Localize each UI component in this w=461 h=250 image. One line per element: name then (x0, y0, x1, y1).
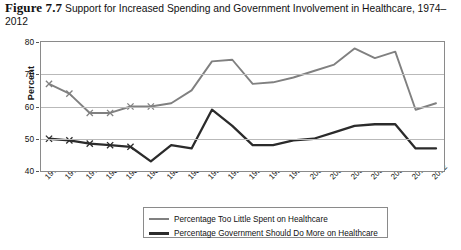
legend-box: Percentage Too Little Spent on Healthcar… (143, 207, 388, 238)
y-tick-mark (36, 139, 39, 140)
series-line (49, 110, 436, 162)
legend-swatch (149, 218, 169, 220)
figure-root: Figure 7.7 Support for Increased Spendin… (0, 0, 461, 250)
y-tick-label: 60 (14, 102, 34, 112)
legend-label: Percentage Government Should Do More on … (174, 229, 378, 238)
y-tick-mark (36, 74, 39, 75)
y-tick-mark (36, 171, 39, 172)
y-tick-label: 50 (14, 134, 34, 144)
gridline (41, 107, 444, 108)
legend-item: Percentage Too Little Spent on Healthcar… (149, 213, 328, 225)
plot-frame (40, 41, 445, 172)
legend-label: Percentage Too Little Spent on Healthcar… (174, 215, 328, 224)
y-tick-mark (36, 107, 39, 108)
legend-swatch (149, 232, 169, 235)
series-line (49, 48, 436, 113)
y-tick-label: 40 (14, 166, 34, 176)
gridline (41, 74, 444, 75)
y-tick-label: 70 (14, 69, 34, 79)
y-tick-label: 80 (14, 37, 34, 47)
gridline (41, 139, 444, 140)
legend-item: Percentage Government Should Do More on … (149, 227, 378, 239)
y-tick-mark (36, 42, 39, 43)
